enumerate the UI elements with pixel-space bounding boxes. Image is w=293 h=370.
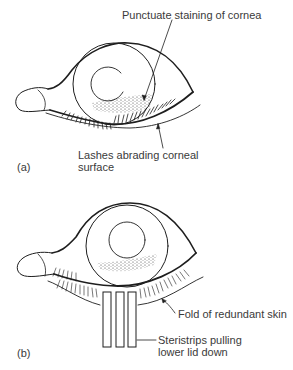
eye-a [16,20,200,148]
panel-label-a: (a) [17,161,30,173]
label-lashes-abrading-line1: Lashes abrading corneal [78,149,198,161]
eye-diagram-figure: Punctuate staining of cornea Lashes abra… [0,0,293,370]
label-steristrips-line1: Steristrips pulling [158,334,242,346]
label-steristrips-line2: lower lid down [158,346,228,358]
label-lashes-abrading-line2: surface [78,161,114,173]
eye-b [17,203,203,347]
panel-label-b: (b) [17,347,30,359]
label-punctuate-staining: Punctuate staining of cornea [122,9,261,21]
label-fold-redundant-skin: Fold of redundant skin [178,308,287,320]
